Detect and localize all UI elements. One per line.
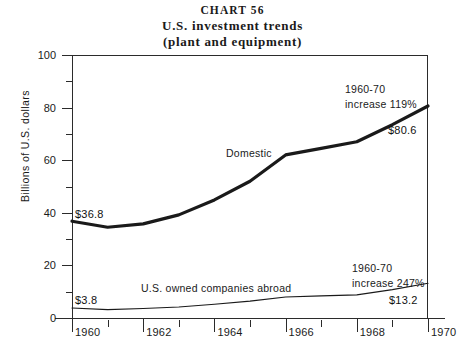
annotation-abroad-growth-period: 1960-70: [352, 261, 425, 276]
annotation-abroad-growth-value: increase 247%: [352, 276, 425, 291]
value-label-abroad-start: $3.8: [75, 294, 97, 306]
value-label-domestic-end: $80.6: [388, 124, 417, 136]
value-label-domestic-start: $36.8: [75, 208, 104, 220]
annotation-domestic-growth-period: 1960-70: [345, 82, 417, 97]
annotation-abroad-growth: 1960-70 increase 247%: [352, 261, 425, 291]
series-label-domestic: Domestic: [226, 146, 272, 161]
value-label-abroad-end: $13.2: [389, 294, 418, 306]
series-label-abroad: U.S. owned companies abroad: [141, 281, 291, 296]
annotation-domestic-growth-value: increase 119%: [345, 97, 417, 112]
annotation-domestic-growth: 1960-70 increase 119%: [345, 82, 417, 112]
chart-container: CHART 56 U.S. investment trends (plant a…: [0, 0, 465, 359]
line-series-domestic: [72, 106, 428, 227]
